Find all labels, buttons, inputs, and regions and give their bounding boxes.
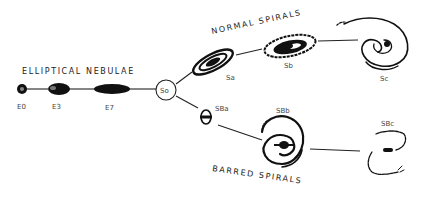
label-sba: SBa — [215, 105, 229, 113]
label-e3: E3 — [52, 103, 61, 111]
label-e7: E7 — [105, 104, 114, 112]
galaxy-e7 — [94, 84, 130, 94]
galaxy-e0 — [17, 84, 27, 94]
label-e0: E0 — [17, 103, 26, 111]
heading-elliptical-nebulae: ELLIPTICAL NEBULAE — [22, 67, 135, 76]
label-so: So — [160, 87, 169, 95]
galaxy-so: So — [156, 80, 176, 100]
label-sa: Sa — [226, 74, 235, 82]
galaxy-sbb — [262, 116, 303, 167]
galaxy-sba — [200, 110, 212, 124]
galaxy-sbc — [368, 131, 405, 174]
label-sbc: SBc — [381, 120, 394, 128]
label-sb: Sb — [284, 62, 293, 70]
connector-lines — [26, 40, 360, 151]
tuning-fork-diagram: ELLIPTICAL NEBULAE E0 E3 E7 So NORMAL SP… — [0, 0, 425, 199]
label-sbb: SBb — [276, 107, 290, 115]
heading-barred-spirals: BARRED SPIRALS — [212, 164, 303, 186]
heading-normal-spirals: NORMAL SPIRALS — [211, 8, 303, 36]
label-sc: Sc — [380, 75, 388, 83]
galaxy-sc — [336, 18, 408, 69]
galaxy-sb — [262, 31, 317, 61]
